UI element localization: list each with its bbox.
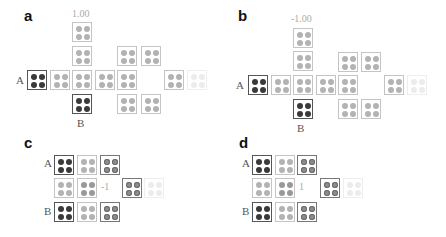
grid-cell [384, 75, 404, 95]
grid-cell [293, 28, 313, 48]
grid-cell [338, 99, 358, 119]
grid-cell [361, 52, 381, 72]
grid-cell [117, 94, 137, 114]
grid-cell [164, 70, 184, 90]
panel-a: a 1.00 A B [0, 0, 223, 130]
panel-d: d A B 1 [223, 130, 446, 237]
panel-label: d [239, 134, 248, 151]
node-b-cell [54, 202, 74, 222]
node-label-a: A [44, 157, 52, 169]
value-label: 1.00 [72, 8, 90, 19]
grid-cell [338, 52, 358, 72]
grid-cell [50, 70, 70, 90]
grid-cell-faint [144, 178, 164, 198]
panel-c: c A B -1 [0, 130, 223, 237]
grid-cell-ring [100, 202, 120, 222]
node-label-a: A [236, 79, 244, 91]
node-b-cell [293, 99, 313, 119]
grid-cell [72, 70, 92, 90]
node-a-cell [252, 155, 272, 175]
node-a-cell [54, 155, 74, 175]
grid-cell [77, 155, 97, 175]
grid-cell [316, 75, 336, 95]
panel-label: b [238, 7, 247, 24]
grid-cell-ring [122, 178, 142, 198]
grid-cell [77, 202, 97, 222]
grid-cell [293, 75, 313, 95]
grid-cell [54, 178, 74, 198]
grid-cell [293, 51, 313, 71]
panel-label: c [24, 134, 32, 151]
grid-cell [117, 70, 137, 90]
node-label-a: A [16, 74, 24, 86]
grid-cell-ring [297, 155, 317, 175]
node-b-cell [72, 94, 92, 114]
grid-cell-ring [297, 202, 317, 222]
node-label-a: A [242, 157, 250, 169]
grid-cell-faint [407, 75, 427, 95]
value-label: 1 [299, 181, 304, 192]
grid-cell [141, 46, 161, 66]
grid-cell [95, 70, 115, 90]
node-label-b: B [77, 117, 84, 129]
grid-cell [275, 202, 295, 222]
grid-cell-faint [343, 178, 363, 198]
grid-cell [117, 46, 137, 66]
value-label: -1 [101, 181, 109, 192]
value-label: -1.00 [291, 13, 312, 24]
grid-cell [275, 155, 295, 175]
grid-cell [141, 94, 161, 114]
grid-cell [72, 22, 92, 42]
grid-cell-faint [187, 70, 207, 90]
grid-cell [338, 75, 358, 95]
node-label-b: B [242, 205, 249, 217]
node-a-cell [27, 70, 47, 90]
grid-cell [252, 178, 272, 198]
panel-b: b -1.00 A B [221, 5, 446, 135]
grid-cell [361, 99, 381, 119]
grid-cell [275, 178, 295, 198]
node-label-b: B [44, 205, 51, 217]
node-b-cell [252, 202, 272, 222]
grid-cell [77, 178, 97, 198]
panel-label: a [24, 7, 32, 24]
grid-cell [72, 46, 92, 66]
grid-cell [271, 75, 291, 95]
grid-cell-ring [320, 178, 340, 198]
node-a-cell [248, 75, 268, 95]
grid-cell-ring [100, 155, 120, 175]
